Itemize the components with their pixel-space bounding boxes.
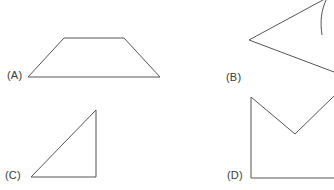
shape-b-triangle <box>249 0 334 72</box>
option-label-c: (C) <box>5 169 21 181</box>
shape-d-notched-polygon <box>251 96 334 178</box>
option-label-a: (A) <box>7 69 22 81</box>
option-label-d: (D) <box>227 169 243 181</box>
shape-c-right-triangle <box>31 110 96 177</box>
clipped-curve-icon <box>321 0 327 35</box>
shapes-svg <box>0 0 334 190</box>
shape-a-trapezoid <box>28 38 160 77</box>
option-label-b: (B) <box>226 71 241 83</box>
figure-canvas: (A) (B) (C) (D) <box>0 0 334 190</box>
